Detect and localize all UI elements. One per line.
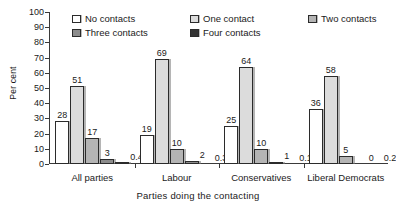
y-axis-tick-mark: [45, 73, 49, 74]
legend-swatch-icon: [308, 15, 317, 23]
x-axis-group-label: Conservatives: [231, 172, 291, 183]
legend-label: Two contacts: [321, 14, 376, 24]
y-axis-tick-mark: [45, 149, 49, 150]
legend-item[interactable]: One contact: [190, 14, 254, 24]
legend-item[interactable]: Three contacts: [72, 28, 148, 38]
bar-chart: Per cent 1009080706050403020100 28511730…: [0, 0, 396, 211]
legend-label: No contacts: [85, 14, 135, 24]
y-axis-tick-label: 10: [18, 144, 44, 153]
bar: [324, 76, 338, 164]
y-axis-tick-mark: [45, 103, 49, 104]
y-axis-tick-label: 0: [18, 160, 44, 169]
y-axis-tick-label: 70: [18, 53, 44, 62]
y-axis-title: Per cent: [8, 48, 18, 118]
bar-value-label: 36: [311, 99, 321, 108]
legend-item[interactable]: Four contacts: [190, 28, 261, 38]
y-axis-tick-mark: [45, 88, 49, 89]
bar-value-label: 64: [241, 57, 251, 66]
bar: [239, 67, 253, 164]
legend-swatch-icon: [190, 29, 199, 37]
bar: [339, 156, 353, 164]
bar: [115, 162, 129, 164]
y-axis-tick-mark: [45, 12, 49, 13]
bar: [254, 149, 268, 164]
legend: No contactsOne contactTwo contacts Three…: [72, 14, 372, 42]
legend-row-1: No contactsOne contactTwo contacts: [72, 14, 372, 28]
bar: [55, 121, 69, 164]
bar: [85, 138, 99, 164]
bar-value-label: 51: [72, 76, 82, 85]
bar: [70, 86, 84, 164]
legend-swatch-icon: [72, 15, 81, 23]
y-axis-tick-label: 30: [18, 114, 44, 123]
bar-value-label: 10: [256, 139, 266, 148]
legend-item[interactable]: No contacts: [72, 14, 135, 24]
y-axis-tick-label: 100: [18, 8, 44, 17]
bar: [224, 126, 238, 164]
bar-value-label: 17: [87, 128, 97, 137]
x-axis-group-label: All parties: [71, 172, 113, 183]
x-axis-tick-mark: [135, 164, 136, 168]
legend-label: Four contacts: [203, 28, 261, 38]
x-axis-tick-mark: [219, 164, 220, 168]
bar-value-label: 25: [226, 116, 236, 125]
bar: [100, 159, 114, 164]
y-axis-tick-label: 40: [18, 99, 44, 108]
bar-value-label: 69: [157, 49, 167, 58]
legend-label: One contact: [203, 14, 254, 24]
legend-swatch-icon: [72, 29, 81, 37]
y-axis-tick-label: 20: [18, 129, 44, 138]
y-axis-tick-mark: [45, 164, 49, 165]
bar: [155, 59, 169, 164]
y-axis-tick-mark: [45, 118, 49, 119]
y-axis-tick-mark: [45, 58, 49, 59]
x-axis-title: Parties doing the contacting: [0, 190, 396, 201]
bar-wrapper: 28: [55, 12, 69, 164]
bar: [140, 135, 154, 164]
bar: [309, 109, 323, 164]
legend-label: Three contacts: [85, 28, 148, 38]
bar-value-label: 10: [172, 139, 182, 148]
y-axis-tick-label: 90: [18, 23, 44, 32]
x-axis-tick-mark: [304, 164, 305, 168]
x-axis-group-label: Liberal Democrats: [307, 172, 384, 183]
y-axis-tick-mark: [45, 42, 49, 43]
legend-swatch-icon: [190, 15, 199, 23]
bar-value-label: 0.2: [384, 154, 396, 163]
x-axis-group-label: Labour: [162, 172, 192, 183]
bar-value-label: 19: [142, 125, 152, 134]
y-axis-tick-mark: [45, 27, 49, 28]
bar-value-label: 3: [105, 149, 110, 158]
bar-value-label: 28: [57, 111, 67, 120]
bar-value-label: 58: [326, 66, 336, 75]
bar-value-label: 5: [343, 146, 348, 155]
y-axis-tick-labels: 1009080706050403020100: [18, 12, 44, 164]
bar: [170, 149, 184, 164]
y-axis-tick-label: 80: [18, 38, 44, 47]
bar: [185, 161, 199, 164]
y-axis-tick-label: 50: [18, 84, 44, 93]
y-axis-tick-label: 60: [18, 68, 44, 77]
legend-item[interactable]: Two contacts: [308, 14, 376, 24]
bar: [269, 162, 283, 164]
y-axis-tick-mark: [45, 134, 49, 135]
legend-row-2: Three contactsFour contacts: [72, 28, 372, 42]
